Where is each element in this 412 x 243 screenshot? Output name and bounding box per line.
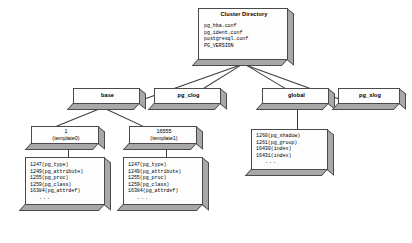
file-item: 1249(pg_attribute) <box>30 169 101 176</box>
node-content: base <box>73 88 140 101</box>
box-bottom-shade <box>25 143 99 150</box>
box-side-shade <box>98 126 105 150</box>
node-content: 1260(pg_shadow) 1261(pg_group) 16430(ind… <box>251 129 328 168</box>
file-item: PG_VERSION <box>204 43 284 50</box>
node-database-template0[interactable]: 1 (template0) <box>31 126 105 150</box>
box-bottom-shade <box>148 103 221 110</box>
node-files-global[interactable]: 1260(pg_shadow) 1261(pg_group) 16430(ind… <box>251 129 334 176</box>
file-list-global: 1260(pg_shadow) 1261(pg_group) 16430(ind… <box>256 133 324 166</box>
node-label-base: base <box>79 92 136 99</box>
file-item: 1259(pg_class) <box>30 182 101 189</box>
database-name-template1: (template1) <box>135 135 193 142</box>
node-database-template1[interactable]: 16555 (template1) <box>129 126 203 150</box>
node-files-template1[interactable]: 1247(pg_type) 1249(pg_attribute) 1255(pg… <box>123 157 209 211</box>
box-side-shade <box>399 88 406 110</box>
database-oid-template1: 16555 <box>135 128 193 135</box>
file-item: 16384(pg_attrdef) <box>30 188 101 195</box>
file-item: pg_ident.conf <box>204 30 284 37</box>
node-content: 1247(pg_type) 1249(pg_attribute) 1255(pg… <box>25 157 105 204</box>
file-item: pg_hba.conf <box>204 23 284 30</box>
node-label-pg-clog: pg_clog <box>160 92 217 99</box>
node-cluster-directory[interactable]: Cluster Directory pg_hba.conf pg_ident.c… <box>198 8 294 66</box>
file-list-template1: 1247(pg_type) 1249(pg_attribute) 1255(pg… <box>128 162 199 202</box>
diagram-canvas: Cluster Directory pg_hba.conf pg_ident.c… <box>0 0 412 243</box>
cluster-directory-files: pg_hba.conf pg_ident.conf postgresql.con… <box>204 23 284 49</box>
box-bottom-shade <box>67 103 140 110</box>
node-label-global: global <box>268 92 325 99</box>
file-list-template0: 1247(pg_type) 1249(pg_attribute) 1255(pg… <box>30 162 101 202</box>
file-item: 1247(pg_type) <box>128 162 199 169</box>
database-name-template0: (template0) <box>37 135 95 142</box>
node-content: pg_xlog <box>338 88 400 101</box>
box-side-shade <box>220 88 227 110</box>
file-item-ellipsis: ... <box>256 159 324 166</box>
file-item: 1247(pg_type) <box>30 162 101 169</box>
node-pg-xlog[interactable]: pg_xlog <box>338 88 406 110</box>
node-global[interactable]: global <box>262 88 335 110</box>
cluster-directory-title: Cluster Directory <box>204 11 284 18</box>
box-side-shade <box>139 88 146 110</box>
box-side-shade <box>196 126 203 150</box>
node-base[interactable]: base <box>73 88 146 110</box>
file-item: 1255(pg_proc) <box>128 175 199 182</box>
database-oid-template0: 1 <box>37 128 95 135</box>
node-content: pg_clog <box>154 88 221 101</box>
node-content: global <box>262 88 329 101</box>
file-item: 16384(pg_attrdef) <box>128 188 199 195</box>
file-item: 16431(index) <box>256 153 324 160</box>
box-side-shade <box>104 157 111 211</box>
node-content: 1247(pg_type) 1249(pg_attribute) 1255(pg… <box>123 157 203 204</box>
file-item: 1249(pg_attribute) <box>128 169 199 176</box>
node-content: 16555 (template1) <box>129 126 197 144</box>
box-bottom-shade <box>245 169 328 176</box>
file-item: 1261(pg_group) <box>256 140 324 147</box>
box-bottom-shade <box>123 143 197 150</box>
file-item-ellipsis: ... <box>30 195 101 202</box>
file-item-ellipsis: ... <box>128 195 199 202</box>
box-bottom-shade <box>19 204 105 211</box>
node-content: 1 (template0) <box>31 126 99 144</box>
box-bottom-shade <box>192 59 288 66</box>
file-item: 1255(pg_proc) <box>30 175 101 182</box>
node-pg-clog[interactable]: pg_clog <box>154 88 227 110</box>
node-label-pg-xlog: pg_xlog <box>344 92 396 99</box>
connector-base-template0 <box>56 107 103 127</box>
file-item: 16430(index) <box>256 146 324 153</box>
file-item: 1259(pg_class) <box>128 182 199 189</box>
box-side-shade <box>287 8 294 66</box>
box-side-shade <box>202 157 209 211</box>
file-item: postgresql.conf <box>204 36 284 43</box>
node-files-template0[interactable]: 1247(pg_type) 1249(pg_attribute) 1255(pg… <box>25 157 111 211</box>
box-bottom-shade <box>117 204 203 211</box>
box-bottom-shade <box>256 103 329 110</box>
box-bottom-shade <box>332 103 400 110</box>
connector-global-files <box>297 110 298 129</box>
file-item: 1260(pg_shadow) <box>256 133 324 140</box>
node-content: Cluster Directory pg_hba.conf pg_ident.c… <box>198 8 288 51</box>
